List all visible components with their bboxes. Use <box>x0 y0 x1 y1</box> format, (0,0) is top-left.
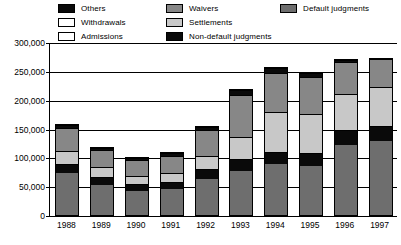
y-tick-250000 <box>46 72 50 73</box>
bar-segment-1990-non-default-judgments <box>126 184 148 191</box>
bar-1996[interactable] <box>334 59 358 216</box>
bar-1997[interactable] <box>369 58 393 216</box>
bar-segment-1988-waivers <box>56 128 78 151</box>
x-tick-label-1994: 1994 <box>258 220 292 230</box>
legend-label-default-judgments: Default judgments <box>303 4 369 13</box>
bar-1989[interactable] <box>90 147 114 216</box>
x-tick-label-1989: 1989 <box>84 220 118 230</box>
legend-swatch-waivers <box>166 4 183 13</box>
bar-segment-1991-default-judgments <box>161 189 183 215</box>
x-axis-tick-labels: 1988198919901991199219931994199519961997 <box>49 220 397 234</box>
y-tick-label-100000: 100,000 <box>14 154 45 163</box>
bar-segment-1989-default-judgments <box>91 185 113 215</box>
bar-segment-1994-settlements <box>265 112 287 151</box>
legend-item-settlements: Settlements <box>166 16 272 29</box>
x-tick-label-1993: 1993 <box>223 220 257 230</box>
legend-label-others: Others <box>81 4 106 13</box>
bar-segment-1991-settlements <box>161 173 183 182</box>
bar-segment-1989-settlements <box>91 167 113 177</box>
x-tick-label-1990: 1990 <box>119 220 153 230</box>
y-tick-150000 <box>46 130 50 131</box>
bar-1993[interactable] <box>229 89 253 216</box>
chart-legend: Others Withdrawals Admissions Waivers Se… <box>58 2 398 44</box>
bar-segment-1990-settlements <box>126 176 148 184</box>
bar-segment-1994-waivers <box>265 73 287 112</box>
legend-label-settlements: Settlements <box>189 18 232 27</box>
bar-segment-1996-non-default-judgments <box>335 130 357 145</box>
legend-label-waivers: Waivers <box>189 4 218 13</box>
bar-segment-1992-waivers <box>196 130 218 156</box>
bar-1992[interactable] <box>195 126 219 216</box>
y-tick-label-300000: 300,000 <box>14 39 45 48</box>
bar-segment-1995-waivers <box>300 77 322 114</box>
bar-segment-1996-default-judgments <box>335 145 357 215</box>
legend-swatch-admissions <box>58 32 75 41</box>
x-tick-label-1996: 1996 <box>328 220 362 230</box>
bar-1991[interactable] <box>160 152 184 216</box>
bar-segment-1991-waivers <box>161 156 183 173</box>
y-tick-label-250000: 250,000 <box>14 68 45 77</box>
y-tick-100000 <box>46 158 50 159</box>
legend-column-3: Default judgments <box>280 2 369 16</box>
gridline-300000 <box>50 43 397 44</box>
legend-label-admissions: Admissions <box>81 32 123 41</box>
stacked-bar-chart: Others Withdrawals Admissions Waivers Se… <box>0 0 401 245</box>
y-tick-300000 <box>46 43 50 44</box>
bar-1990[interactable] <box>125 157 149 216</box>
bar-segment-1988-settlements <box>56 151 78 164</box>
bar-segment-1988-default-judgments <box>56 173 78 215</box>
bar-segment-1993-settlements <box>230 137 252 159</box>
bar-segment-1996-waivers <box>335 62 357 94</box>
legend-item-others: Others <box>58 2 126 15</box>
y-tick-label-150000: 150,000 <box>14 126 45 135</box>
x-tick-label-1997: 1997 <box>363 220 397 230</box>
plot-area <box>49 44 397 217</box>
legend-item-withdrawals: Withdrawals <box>58 16 126 29</box>
legend-item-default-judgments: Default judgments <box>280 2 369 15</box>
bar-segment-1994-default-judgments <box>265 164 287 215</box>
legend-column-1: Others Withdrawals Admissions <box>58 2 126 44</box>
legend-item-waivers: Waivers <box>166 2 272 15</box>
y-tick-label-50000: 50,000 <box>19 183 45 192</box>
legend-column-2: Waivers Settlements Non-default judgment… <box>166 2 272 44</box>
y-axis-tick-labels: 050,000100,000150,000200,000250,000300,0… <box>0 44 45 217</box>
legend-item-non-default-judgments: Non-default judgments <box>166 30 272 43</box>
y-tick-200000 <box>46 101 50 102</box>
bar-segment-1991-non-default-judgments <box>161 182 183 189</box>
bar-segment-1993-non-default-judgments <box>230 159 252 171</box>
bar-segment-1992-settlements <box>196 156 218 169</box>
bar-segment-1990-waivers <box>126 160 148 176</box>
bar-segment-1997-default-judgments <box>370 141 392 215</box>
legend-swatch-others <box>58 4 75 13</box>
bar-segment-1989-non-default-judgments <box>91 177 113 185</box>
bar-segment-1997-waivers <box>370 59 392 87</box>
bar-segment-1996-settlements <box>335 94 357 130</box>
bar-segment-1997-non-default-judgments <box>370 126 392 142</box>
bar-1994[interactable] <box>264 67 288 216</box>
bar-segment-1992-default-judgments <box>196 179 218 215</box>
x-tick-label-1988: 1988 <box>49 220 83 230</box>
legend-swatch-default-judgments <box>280 4 297 13</box>
bar-segment-1995-settlements <box>300 114 322 153</box>
bar-1988[interactable] <box>55 124 79 217</box>
x-tick-label-1995: 1995 <box>293 220 327 230</box>
bar-segment-1995-default-judgments <box>300 166 322 215</box>
bar-1995[interactable] <box>299 72 323 216</box>
y-tick-label-0: 0 <box>40 212 45 221</box>
bar-segment-1988-non-default-judgments <box>56 164 78 174</box>
legend-label-withdrawals: Withdrawals <box>81 18 126 27</box>
legend-label-non-default-judgments: Non-default judgments <box>189 32 272 41</box>
x-tick-label-1991: 1991 <box>154 220 188 230</box>
y-tick-0 <box>46 216 50 217</box>
bar-segment-1994-non-default-judgments <box>265 152 287 165</box>
legend-swatch-non-default-judgments <box>166 32 183 41</box>
y-tick-label-200000: 200,000 <box>14 97 45 106</box>
x-tick-label-1992: 1992 <box>189 220 223 230</box>
y-tick-50000 <box>46 187 50 188</box>
bar-segment-1993-default-judgments <box>230 171 252 215</box>
legend-swatch-withdrawals <box>58 18 75 27</box>
bar-segment-1989-waivers <box>91 150 113 167</box>
bar-segment-1993-waivers <box>230 95 252 138</box>
bar-segment-1992-non-default-judgments <box>196 169 218 179</box>
bar-segment-1997-settlements <box>370 87 392 126</box>
